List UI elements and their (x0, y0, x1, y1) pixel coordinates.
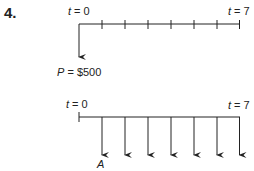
top-start-label: t = 0 (68, 5, 90, 17)
bottom-start-label: t = 0 (66, 98, 88, 110)
top-end-label: t = 7 (228, 5, 250, 17)
top-timeline (79, 20, 240, 57)
bottom-end-label: t = 7 (228, 99, 250, 111)
bottom-timeline (79, 112, 240, 155)
cash-flow-diagrams (0, 0, 254, 171)
annuity-label: A (97, 158, 104, 170)
present-value-label: P = $500 (57, 66, 101, 78)
